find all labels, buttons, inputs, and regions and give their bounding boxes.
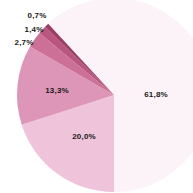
label-0-7: 0,7%: [27, 11, 46, 20]
label-2-7: 2,7%: [14, 38, 33, 47]
label-20-0: 20,0%: [72, 132, 96, 141]
label-1-4: 1,4%: [24, 25, 43, 34]
label-61-8: 61,8%: [144, 90, 168, 99]
label-13-3: 13,3%: [45, 86, 69, 95]
